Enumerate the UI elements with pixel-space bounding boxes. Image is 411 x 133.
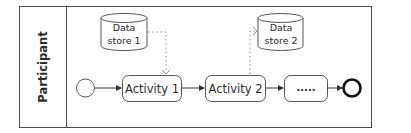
pool-border xyxy=(20,7,372,128)
data-store-2-line2: store 2 xyxy=(264,35,297,46)
activity-1[interactable]: Activity 1 xyxy=(123,76,182,102)
pool-label: Participant xyxy=(36,31,50,103)
data-store-1-line1: Data xyxy=(113,22,136,33)
data-store-1-line2: store 1 xyxy=(107,35,140,46)
bpmn-diagram: Participant Data store 1 Data store 2 Ac… xyxy=(0,0,411,133)
data-store-1[interactable]: Data store 1 xyxy=(101,14,147,51)
activity-3[interactable]: ..... xyxy=(285,76,328,102)
activity-3-label: ..... xyxy=(297,82,316,93)
activity-1-label: Activity 1 xyxy=(125,82,179,96)
activity-2-label: Activity 2 xyxy=(209,82,263,96)
data-store-2[interactable]: Data store 2 xyxy=(258,14,303,51)
pool: Participant xyxy=(20,7,372,128)
activity-2[interactable]: Activity 2 xyxy=(206,76,266,102)
end-event[interactable] xyxy=(344,80,361,97)
start-event[interactable] xyxy=(77,79,95,97)
data-store-2-line1: Data xyxy=(270,22,293,33)
